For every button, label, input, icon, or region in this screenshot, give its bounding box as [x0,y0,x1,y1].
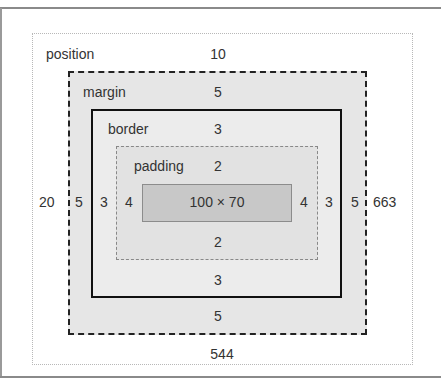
content-size-value[interactable]: 100 × 70 [190,194,245,210]
margin-left-value[interactable]: 5 [75,194,83,210]
position-left-value[interactable]: 20 [39,194,55,210]
border-bottom-value[interactable]: 3 [214,272,222,288]
padding-bottom-value[interactable]: 2 [214,234,222,250]
padding-label: padding [134,158,184,174]
margin-label: margin [83,84,126,100]
position-bottom-value[interactable]: 544 [210,346,233,362]
frame-left-line [0,8,2,378]
position-label: position [46,46,94,62]
margin-top-value[interactable]: 5 [214,84,222,100]
frame-top-line [0,7,441,9]
border-top-value[interactable]: 3 [214,121,222,137]
margin-right-value[interactable]: 5 [351,194,359,210]
position-right-value[interactable]: 663 [373,194,396,210]
border-label: border [108,121,148,137]
position-top-value[interactable]: 10 [210,46,226,62]
frame-bottom-line [0,376,441,378]
margin-bottom-value[interactable]: 5 [214,308,222,324]
padding-right-value[interactable]: 4 [300,194,308,210]
border-left-value[interactable]: 3 [100,194,108,210]
padding-left-value[interactable]: 4 [125,194,133,210]
padding-top-value[interactable]: 2 [214,158,222,174]
border-right-value[interactable]: 3 [325,194,333,210]
